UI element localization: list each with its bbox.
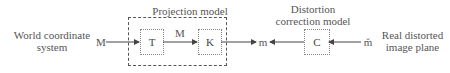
arrows-layer (0, 0, 450, 73)
